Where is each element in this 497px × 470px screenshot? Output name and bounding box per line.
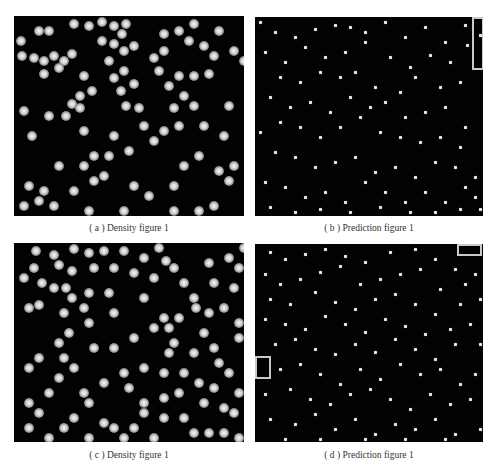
prediction-point [309, 101, 312, 104]
density-blob [159, 126, 169, 136]
density-blob [224, 101, 234, 111]
density-blob [59, 353, 69, 363]
density-blob [29, 263, 39, 273]
prediction-point [389, 56, 392, 59]
prediction-point [269, 298, 272, 301]
prediction-point [364, 41, 367, 44]
prediction-point [466, 44, 469, 47]
prediction-point [384, 21, 387, 24]
prediction-point [434, 358, 437, 361]
density-blob [189, 293, 199, 303]
prediction-point [379, 378, 382, 381]
density-blob [194, 378, 204, 388]
density-blob [199, 121, 209, 131]
density-blob [129, 181, 139, 191]
prediction-point [434, 211, 437, 214]
prediction-point [259, 21, 262, 24]
prediction-point [279, 368, 282, 371]
prediction-point [404, 201, 407, 204]
prediction-point [414, 176, 417, 179]
density-blob [69, 186, 79, 196]
prediction-point [374, 171, 377, 174]
prediction-point [284, 438, 287, 441]
density-blob [119, 368, 129, 378]
density-blob [219, 131, 229, 141]
density-blob [174, 121, 184, 131]
prediction-point [379, 131, 382, 134]
prediction-point [319, 208, 322, 211]
prediction-point [314, 413, 317, 416]
prediction-point [414, 303, 417, 306]
density-blob [194, 206, 204, 216]
density-blob [27, 131, 37, 141]
prediction-point [354, 71, 357, 74]
density-blob [75, 103, 85, 113]
prediction-point [454, 343, 457, 346]
density-blob [229, 161, 239, 171]
density-blob [19, 273, 29, 283]
prediction-point [474, 196, 477, 199]
density-blob [129, 268, 139, 278]
density-blob [49, 250, 59, 260]
prediction-point [469, 323, 472, 326]
density-blob [17, 51, 27, 61]
prediction-point [304, 46, 307, 49]
prediction-point [369, 388, 372, 391]
prediction-point [454, 433, 457, 436]
density-blob [24, 303, 34, 313]
density-blob [16, 36, 26, 46]
density-blob [139, 408, 149, 418]
density-blob [97, 36, 107, 46]
density-blob [39, 69, 49, 79]
prediction-point [264, 51, 267, 54]
density-blob [219, 428, 229, 438]
density-blob [169, 206, 179, 216]
prediction-point [299, 126, 302, 129]
density-blob [191, 303, 201, 313]
density-blob [84, 318, 94, 328]
prediction-point [434, 313, 437, 316]
prediction-point [399, 363, 402, 366]
prediction-point [414, 428, 417, 431]
prediction-point [274, 343, 277, 346]
density-blob [119, 46, 129, 56]
density-blob [119, 66, 129, 76]
prediction-point [284, 186, 287, 189]
prediction-point [339, 383, 342, 386]
density-blob [104, 56, 114, 66]
density-blob [49, 283, 59, 293]
density-blob [159, 368, 169, 378]
prediction-point [394, 423, 397, 426]
prediction-point [464, 283, 467, 286]
prediction-point [344, 255, 347, 258]
prediction-point [459, 303, 462, 306]
density-blob [209, 383, 219, 393]
density-blob [169, 338, 179, 348]
prediction-point [339, 126, 342, 129]
prediction-point [264, 318, 267, 321]
density-blob [159, 46, 169, 56]
prediction-point [279, 121, 282, 124]
prediction-point [294, 156, 297, 159]
density-blob [189, 71, 199, 81]
prediction-point [309, 398, 312, 401]
prediction-point [359, 116, 362, 119]
density-blob [39, 186, 49, 196]
prediction-point [374, 433, 377, 436]
density-blob [84, 398, 94, 408]
prediction-point [444, 106, 447, 109]
prediction-point [469, 398, 472, 401]
density-blob [189, 101, 199, 111]
prediction-point [414, 348, 417, 351]
density-blob [234, 433, 244, 442]
prediction-point [349, 211, 352, 214]
prediction-point [264, 393, 267, 396]
prediction-point [424, 333, 427, 336]
density-blob [219, 303, 229, 313]
prediction-point [424, 191, 427, 194]
prediction-point [369, 106, 372, 109]
panel-c-density-map [14, 243, 244, 442]
prediction-point [359, 368, 362, 371]
density-blob [84, 433, 94, 442]
prediction-point [279, 76, 282, 79]
